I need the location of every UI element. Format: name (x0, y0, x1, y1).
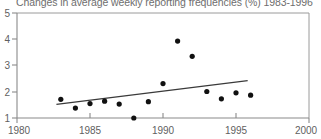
data-point (233, 90, 238, 95)
chart-container: Changes in average weekly reporting freq… (0, 0, 321, 139)
data-point (190, 54, 195, 59)
data-point (58, 97, 63, 102)
x-tick-label-1985: 1985 (79, 125, 102, 136)
y-tick-label-1: 1 (4, 113, 10, 124)
data-point (102, 99, 107, 104)
x-tick-label-1990: 1990 (152, 125, 175, 136)
y-tick-label-5: 5 (4, 8, 10, 19)
data-point (219, 96, 224, 101)
data-point (175, 38, 180, 43)
y-tick-label-2: 2 (4, 87, 10, 98)
plot-frame (17, 13, 309, 118)
data-point (73, 105, 78, 110)
y-tick-label-3: 3 (4, 60, 10, 71)
x-tick-label-1980: 1980 (8, 125, 31, 136)
data-point (160, 81, 165, 86)
data-point (248, 93, 253, 98)
data-point (131, 115, 136, 120)
x-tick-label-1995: 1995 (225, 125, 248, 136)
data-point (146, 99, 151, 104)
trend-line (56, 81, 247, 105)
data-point (204, 89, 209, 94)
chart-plot-svg: 5 4 3 2 1 1980 1985 1990 1995 2000 (0, 0, 321, 139)
data-points-group (58, 38, 253, 120)
y-tick-label-4: 4 (4, 34, 10, 45)
data-point (117, 101, 122, 106)
y-axis-ticks (12, 13, 17, 118)
x-tick-label-2000: 2000 (295, 125, 318, 136)
data-point (87, 101, 92, 106)
